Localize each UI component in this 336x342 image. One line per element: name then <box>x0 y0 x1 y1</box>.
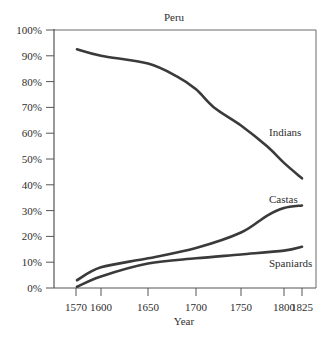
series-label-spaniards: Spaniards <box>269 257 312 269</box>
x-tick-label: 1750 <box>230 301 253 313</box>
y-tick-label: 10% <box>22 256 42 268</box>
x-tick-label: 1570 <box>65 301 88 313</box>
y-tick-label: 30% <box>22 205 42 217</box>
y-tick-label: 100% <box>16 24 42 36</box>
y-axis: 0%10%20%30%40%50%60%70%80%90%100% <box>16 24 54 294</box>
y-tick-label: 90% <box>22 50 42 62</box>
y-tick-label: 40% <box>22 179 42 191</box>
y-tick-label: 0% <box>27 282 42 294</box>
y-tick-label: 20% <box>22 230 42 242</box>
y-tick-label: 60% <box>22 127 42 139</box>
plot-frame <box>54 29 316 288</box>
x-tick-label: 1600 <box>90 301 113 313</box>
chart-title: Peru <box>164 11 185 23</box>
series-lines <box>77 49 302 286</box>
x-tick-label: 1700 <box>185 301 208 313</box>
series-label-indians: Indians <box>269 126 301 138</box>
series-label-castas: Castas <box>269 193 298 205</box>
series-line-indians <box>77 49 302 178</box>
x-tick-label: 1825 <box>291 301 314 313</box>
x-axis: 1570160016501700175018001825 <box>65 288 314 313</box>
line-chart: 0%10%20%30%40%50%60%70%80%90%100% 157016… <box>0 0 336 342</box>
x-axis-label: Year <box>174 315 195 327</box>
series-line-castas <box>77 205 302 280</box>
x-tick-label: 1650 <box>137 301 160 313</box>
y-tick-label: 70% <box>22 101 42 113</box>
y-tick-label: 80% <box>22 76 42 88</box>
y-tick-label: 50% <box>22 153 42 165</box>
